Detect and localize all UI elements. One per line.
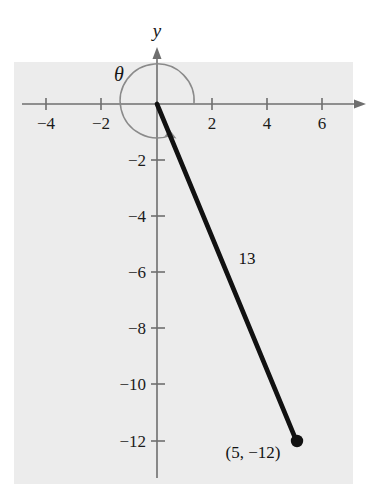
y-tick-label-neg12: −12: [119, 433, 146, 450]
x-tick-label-2: 2: [208, 115, 217, 132]
y-axis-arrowhead: [153, 47, 162, 59]
terminal-ray-segment: [157, 104, 296, 440]
x-tick-label-neg4: −4: [37, 115, 55, 132]
x-tick-label-4: 4: [263, 115, 272, 132]
graph-drawing: [0, 0, 371, 484]
y-tick-label-neg10: −10: [119, 376, 146, 393]
x-axis-arrowhead: [354, 100, 366, 109]
y-tick-label-neg8: −8: [128, 320, 146, 337]
point-coordinate-label: (5, −12): [226, 444, 281, 461]
y-tick-label-neg6: −6: [128, 264, 146, 281]
segment-length-label: 13: [239, 250, 256, 267]
y-tick-label-neg2: −2: [128, 152, 146, 169]
x-tick-label-neg2: −2: [92, 115, 110, 132]
terminal-point-dot: [291, 435, 303, 447]
x-tick-label-6: 6: [318, 115, 327, 132]
y-tick-label-neg4: −4: [128, 208, 146, 225]
y-axis-label: y: [153, 21, 161, 40]
y-axis-ticks: [151, 160, 165, 441]
coordinate-plane-figure: y θ −4 −2 2 4 6 −2 −4 −6 −8 −10 −12 13 (…: [0, 0, 371, 484]
angle-theta-label: θ: [114, 64, 124, 84]
